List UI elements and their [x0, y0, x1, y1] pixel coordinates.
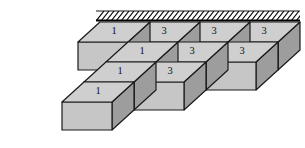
block-label: 3: [167, 65, 172, 76]
block-label: 3: [189, 45, 194, 56]
block-label: 1: [95, 85, 100, 96]
block-label: 3: [261, 25, 266, 36]
block-label: 1: [111, 25, 116, 36]
block-r4c1: 1: [62, 82, 134, 130]
block-label: 3: [161, 25, 166, 36]
wall-hatch-group: [96, 11, 304, 21]
figure-root: 3 3 3 1 3: [0, 0, 305, 148]
block-label: 1: [117, 65, 122, 76]
block-label: 3: [211, 25, 216, 36]
block-stack-diagram: 3 3 3 1 3: [0, 0, 305, 148]
fixed-support-wall: [96, 11, 304, 21]
block-front-face: [62, 102, 112, 130]
block-label: 1: [139, 45, 144, 56]
block-label: 3: [239, 45, 244, 56]
